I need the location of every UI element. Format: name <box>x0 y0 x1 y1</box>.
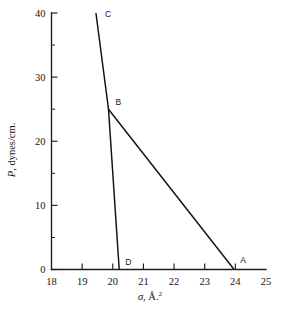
y-tick-label: 0 <box>40 264 45 275</box>
x-tick-label: 23 <box>199 276 210 287</box>
y-tick-label: 30 <box>35 72 46 83</box>
y-axis-tick-labels: 010203040 <box>35 8 46 276</box>
x-axis-title-exponent: 2 <box>159 290 163 298</box>
x-tick-label: 19 <box>77 276 88 287</box>
point-label-b: B <box>115 97 121 107</box>
svg-text:σ, Å.2: σ, Å.2 <box>138 290 163 302</box>
x-tick-label: 22 <box>169 276 180 287</box>
x-tick-label: 24 <box>230 276 241 287</box>
point-label-c: C <box>105 9 111 19</box>
x-tick-label: 20 <box>108 276 119 287</box>
point-label-d: D <box>125 257 131 267</box>
chart-svg: 010203040 1819202122232425 CBDA P, dynes… <box>0 0 286 314</box>
y-tick-label: 40 <box>35 8 46 19</box>
chart-figure: 010203040 1819202122232425 CBDA P, dynes… <box>0 0 286 314</box>
y-tick-label: 10 <box>35 200 46 211</box>
x-tick-label: 25 <box>261 276 272 287</box>
point-label-a: A <box>240 255 246 265</box>
y-axis-title-rest: , dynes/cm. <box>6 123 17 171</box>
x-axis-title-rest: , Å. <box>143 291 158 302</box>
data-series <box>96 13 234 270</box>
x-axis-title: σ, Å.2 <box>138 290 163 302</box>
x-tick-label: 21 <box>138 276 149 287</box>
x-axis-tick-labels: 1819202122232425 <box>46 276 271 287</box>
data-line-b-a <box>108 109 234 269</box>
axes: 010203040 1819202122232425 <box>35 8 271 287</box>
x-axis-ticks <box>82 264 235 270</box>
data-line-c-b-d <box>96 13 119 270</box>
y-tick-label: 20 <box>35 136 46 147</box>
svg-text:P, dynes/cm.: P, dynes/cm. <box>6 123 17 179</box>
point-labels: CBDA <box>105 9 246 267</box>
x-tick-label: 18 <box>46 276 57 287</box>
y-axis-title: P, dynes/cm. <box>6 123 17 179</box>
y-axis-ticks <box>52 13 58 270</box>
